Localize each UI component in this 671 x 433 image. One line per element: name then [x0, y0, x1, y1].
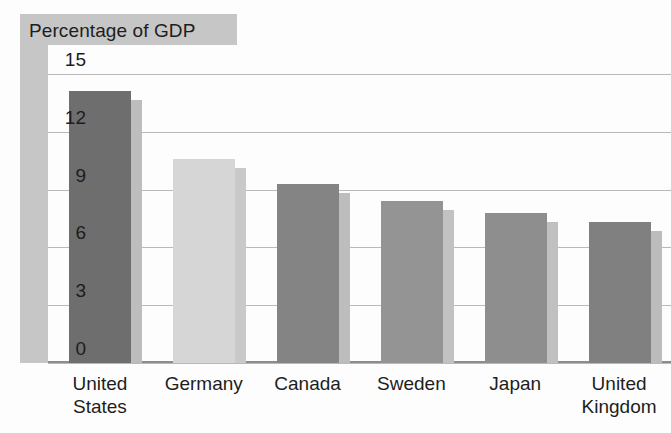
bar-series: [48, 45, 671, 363]
chart-title: Percentage of GDP: [29, 19, 239, 43]
bar-side-face: [443, 210, 454, 363]
x-tick-label: Japan: [463, 372, 567, 395]
y-tick-label: 3: [52, 280, 86, 302]
x-tick-label: Canada: [256, 372, 360, 395]
bar: [485, 213, 558, 363]
bar-front-face: [485, 213, 547, 363]
bar: [589, 222, 662, 363]
y-tick-label: 15: [52, 49, 86, 71]
x-tick-label: Germany: [152, 372, 256, 395]
bar-side-face: [235, 168, 246, 363]
x-tick-label: Sweden: [360, 372, 464, 395]
gridline: [48, 363, 671, 364]
bar: [381, 201, 454, 363]
bar-side-face: [339, 193, 350, 363]
bar: [173, 159, 246, 363]
y-tick-label: 12: [52, 107, 86, 129]
y-tick-label: 9: [52, 165, 86, 187]
y-tick-label: 6: [52, 222, 86, 244]
y-tick-label: 0: [52, 338, 86, 360]
bar-front-face: [589, 222, 651, 363]
bar-side-face: [131, 100, 142, 363]
bar-side-face: [651, 231, 662, 363]
bar-side-face: [547, 222, 558, 363]
bar-front-face: [173, 159, 235, 363]
x-tick-label: UnitedKingdom: [567, 372, 671, 418]
bar: [277, 184, 350, 363]
bar-front-face: [381, 201, 443, 363]
x-tick-label: UnitedStates: [48, 372, 152, 418]
bar-front-face: [277, 184, 339, 363]
bar-chart: Percentage of GDP 15129630 UnitedStatesG…: [0, 0, 671, 433]
chart-left-wall: [20, 14, 48, 363]
